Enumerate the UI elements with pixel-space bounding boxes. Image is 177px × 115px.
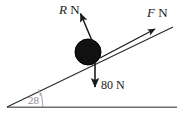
normal-force-label: R N bbox=[59, 3, 80, 16]
degree-symbol: ° bbox=[39, 92, 42, 101]
applied-force-symbol: F bbox=[147, 5, 155, 20]
incline-angle-value: 28 bbox=[28, 94, 39, 106]
physics-diagram-canvas: R N F N 80 N 28° bbox=[0, 0, 177, 115]
incline-angle-label: 28° bbox=[28, 93, 42, 106]
weight-force-unit: N bbox=[116, 78, 125, 92]
weight-force-label: 80 N bbox=[101, 79, 125, 91]
applied-force-arrow bbox=[100, 29, 155, 58]
applied-force-label: F N bbox=[147, 6, 168, 19]
normal-force-symbol: R bbox=[59, 2, 67, 17]
normal-force-unit: N bbox=[70, 2, 79, 17]
applied-force-unit: N bbox=[158, 5, 167, 20]
weight-force-magnitude: 80 bbox=[101, 78, 113, 92]
